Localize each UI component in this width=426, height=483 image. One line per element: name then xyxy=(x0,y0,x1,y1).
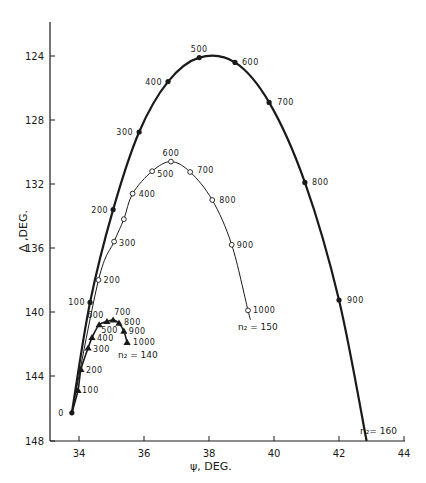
point-label: 200 xyxy=(86,366,103,375)
y-tick-label: 148 xyxy=(25,436,44,447)
point-label: 700 xyxy=(277,98,294,107)
y-tick-label: 144 xyxy=(25,371,44,382)
point-label: 400 xyxy=(145,78,162,87)
x-tick-label: 36 xyxy=(138,448,151,459)
y-tick-label: 128 xyxy=(25,115,44,126)
point-label: 0 xyxy=(58,409,64,418)
x-tick-label: 42 xyxy=(333,448,346,459)
marker-open-circle xyxy=(96,278,101,283)
point-label: 300 xyxy=(93,345,110,354)
marker-triangle xyxy=(124,339,131,345)
marker-filled-circle xyxy=(267,100,272,105)
marker-filled-circle xyxy=(165,79,170,84)
marker-open-circle xyxy=(246,308,251,313)
point-label: 400 xyxy=(139,190,156,199)
marker-open-circle xyxy=(130,191,135,196)
marker-triangle xyxy=(85,344,92,350)
marker-filled-circle xyxy=(302,180,307,185)
markers xyxy=(69,55,341,415)
series-label-n150: n₂ = 150 xyxy=(238,322,278,332)
point-label: 200 xyxy=(91,206,108,215)
marker-open-circle xyxy=(210,198,215,203)
marker-filled-circle xyxy=(69,410,74,415)
marker-filled-circle xyxy=(111,207,116,212)
point-label: 500 xyxy=(157,170,174,179)
point-label: 500 xyxy=(191,45,208,54)
point-label: 700 xyxy=(197,166,214,175)
point-label: 600 xyxy=(87,311,104,320)
marker-open-circle xyxy=(229,242,234,247)
y-axis-title: Δ ,DEG. xyxy=(17,210,30,252)
point-label: 800 xyxy=(124,318,141,327)
marker-open-circle xyxy=(150,169,155,174)
point-label: 100 xyxy=(82,386,99,395)
x-tick-label: 34 xyxy=(73,448,86,459)
marker-open-circle xyxy=(169,159,174,164)
point-label: 1000 xyxy=(253,306,275,315)
x-tick-label: 40 xyxy=(268,448,281,459)
point-label: 400 xyxy=(97,334,114,343)
point-label: 800 xyxy=(312,178,329,187)
marker-filled-circle xyxy=(197,55,202,60)
point-label: 700 xyxy=(114,308,131,317)
point-label: 600 xyxy=(242,58,259,67)
x-tick-label: 44 xyxy=(398,448,411,459)
curves xyxy=(72,56,367,441)
y-tick-label: 124 xyxy=(25,51,44,62)
marker-open-circle xyxy=(112,239,117,244)
marker-triangle xyxy=(88,334,95,340)
point-label: 900 xyxy=(347,296,364,305)
x-axis-title: ψ, DEG. xyxy=(190,460,232,473)
marker-open-circle xyxy=(188,170,193,175)
series-label-n160: n₂= 160 xyxy=(360,426,397,436)
marker-filled-circle xyxy=(87,300,92,305)
point-label: 800 xyxy=(219,196,236,205)
point-label: 600 xyxy=(163,149,180,158)
point-label: 100 xyxy=(68,298,85,307)
point-label: 300 xyxy=(116,128,133,137)
point-label: 1000 xyxy=(133,338,155,347)
marker-filled-circle xyxy=(137,129,142,134)
marker-triangle xyxy=(110,316,117,322)
y-tick-label: 132 xyxy=(25,179,44,190)
point-label: 300 xyxy=(119,239,136,248)
point-label: 200 xyxy=(104,276,121,285)
marker-triangle xyxy=(120,328,127,334)
point-labels: 0100200300400500600700800900200300400500… xyxy=(58,45,364,418)
point-label: 900 xyxy=(129,327,146,336)
marker-open-circle xyxy=(121,217,126,222)
chart-canvas: 343638404244124128132136140144148 010020… xyxy=(0,0,426,483)
marker-filled-circle xyxy=(232,60,237,65)
series-label-n140: n₂ = 140 xyxy=(118,350,158,360)
point-label: 500 xyxy=(101,326,118,335)
y-tick-label: 140 xyxy=(25,307,44,318)
x-tick-label: 38 xyxy=(203,448,216,459)
point-label: 900 xyxy=(237,241,254,250)
marker-filled-circle xyxy=(336,297,341,302)
curve-n2160 xyxy=(72,56,367,441)
